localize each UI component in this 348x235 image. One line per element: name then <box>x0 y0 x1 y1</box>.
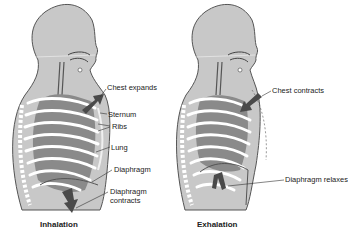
inhalation-figure <box>13 4 112 213</box>
label-diaphragm-relaxes: Diaphragm relaxes <box>285 175 348 184</box>
label-chest-expands: Chest expands <box>107 83 157 92</box>
exhalation-figure <box>176 4 284 210</box>
label-chest-contracts: Chest contracts <box>272 86 324 95</box>
label-sternum: Sternum <box>108 110 136 119</box>
label-ribs: Ribs <box>112 122 127 131</box>
label-diaphragm: Diaphragm <box>114 165 151 174</box>
caption-inhalation: Inhalation <box>40 220 78 229</box>
label-diaphragm-contracts-line1: Diaphragm <box>110 187 147 196</box>
label-diaphragm-contracts-line2: contracts <box>110 196 140 205</box>
label-lung: Lung <box>111 143 128 152</box>
caption-exhalation: Exhalation <box>197 220 237 229</box>
